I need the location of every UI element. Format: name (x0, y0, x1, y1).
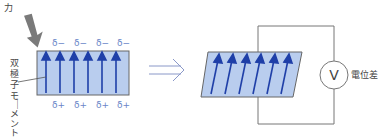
svg-text:δ+: δ+ (117, 100, 130, 110)
svg-text:δ+: δ+ (96, 100, 109, 110)
implies-arrow-icon (149, 59, 184, 81)
svg-text:δ+: δ+ (52, 100, 65, 110)
svg-text:ト: ト (10, 128, 19, 137)
delta-plus-labels: δ+ δ+ δ+ δ+ (52, 100, 130, 110)
svg-text:双: 双 (10, 58, 19, 68)
svg-text:子: 子 (10, 80, 19, 90)
svg-text:δ+: δ+ (74, 100, 87, 110)
svg-text:δ−: δ− (96, 38, 109, 48)
svg-text:メ: メ (10, 109, 19, 119)
force-label: 力 (4, 2, 13, 13)
force-arrow-icon (21, 12, 46, 49)
dipole-moment-label: 双 極 子 モ ｜ メ ン ト (10, 58, 22, 137)
svg-text:極: 極 (10, 68, 19, 79)
svg-text:δ−: δ− (74, 38, 87, 48)
svg-text:δ−: δ− (52, 38, 65, 48)
potential-difference-label: 電位差 (351, 69, 378, 80)
delta-minus-labels: δ− δ− δ− δ− (52, 38, 130, 48)
piezoelectric-diagram: 力 δ− δ− δ− δ− δ+ δ+ δ+ δ+ 双 極 子 モ ｜ メ ン … (0, 0, 386, 137)
voltmeter-label: V (329, 67, 339, 83)
svg-text:δ−: δ− (117, 38, 130, 48)
